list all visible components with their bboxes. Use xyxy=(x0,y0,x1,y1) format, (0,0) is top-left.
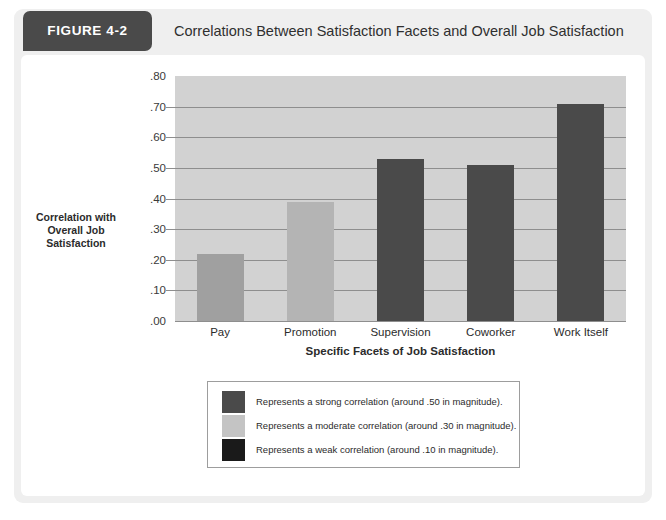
x-axis-tick-label: Promotion xyxy=(284,326,336,338)
y-axis-tick-mark xyxy=(166,199,175,200)
y-axis-tick-labels: .80.70.60.50.40.30.20.10.00 xyxy=(116,76,166,321)
y-axis-tick-label: .70 xyxy=(132,101,166,113)
figure-number-label: FIGURE 4-2 xyxy=(23,11,152,51)
y-axis-tick-label: .30 xyxy=(132,223,166,235)
figure-title: Correlations Between Satisfaction Facets… xyxy=(174,19,644,43)
legend-item: Represents a moderate correlation (aroun… xyxy=(222,414,512,438)
y-axis-title-line-2: Overall Job xyxy=(31,224,121,237)
figure-card: FIGURE 4-2 Correlations Between Satisfac… xyxy=(14,9,652,503)
x-axis-tick-label: Pay xyxy=(210,326,230,338)
legend-swatch xyxy=(222,391,245,413)
legend-item: Represents a strong correlation (around … xyxy=(222,390,512,414)
y-axis-tick-label: .10 xyxy=(132,284,166,296)
x-axis-tick-label: Coworker xyxy=(466,326,515,338)
y-axis-tick-mark xyxy=(166,260,175,261)
y-axis-tick-label: .40 xyxy=(132,193,166,205)
bar xyxy=(467,165,514,321)
bar-chart: Correlation with Overall Job Satisfactio… xyxy=(21,55,645,355)
figure-body: Correlation with Overall Job Satisfactio… xyxy=(21,55,645,496)
plot-area xyxy=(175,76,626,321)
bar xyxy=(197,254,244,321)
y-axis-title: Correlation with Overall Job Satisfactio… xyxy=(31,211,121,250)
legend-label: Represents a weak correlation (around .1… xyxy=(256,438,498,462)
bar xyxy=(377,159,424,321)
y-axis-tick-label: .50 xyxy=(132,162,166,174)
chart-legend: Represents a strong correlation (around … xyxy=(207,381,520,468)
y-axis-tick-mark xyxy=(166,168,175,169)
y-axis-tick-mark xyxy=(166,137,175,138)
y-axis-title-line-3: Satisfaction xyxy=(31,237,121,250)
legend-label: Represents a moderate correlation (aroun… xyxy=(256,414,516,438)
y-axis-tick-mark xyxy=(166,229,175,230)
y-axis-tick-label: .00 xyxy=(132,315,166,327)
bar xyxy=(557,104,604,321)
x-axis-title: Specific Facets of Job Satisfaction xyxy=(175,345,626,357)
y-axis-tick-label: .60 xyxy=(132,131,166,143)
legend-swatch xyxy=(222,439,245,461)
y-axis-tick-label: .20 xyxy=(132,254,166,266)
figure-number-tab: FIGURE 4-2 xyxy=(23,11,152,51)
bar xyxy=(287,202,334,321)
legend-swatch xyxy=(222,415,245,437)
legend-item: Represents a weak correlation (around .1… xyxy=(222,438,512,462)
x-axis-line xyxy=(175,321,626,322)
figure-header: FIGURE 4-2 Correlations Between Satisfac… xyxy=(14,9,652,55)
x-axis-tick-label: Supervision xyxy=(370,326,430,338)
y-axis-tick-label: .80 xyxy=(132,70,166,82)
y-axis-tick-mark xyxy=(166,290,175,291)
y-axis-tick-mark xyxy=(166,107,175,108)
x-axis-tick-labels: PayPromotionSupervisionCoworkerWork Itse… xyxy=(175,326,626,344)
y-axis-title-line-1: Correlation with xyxy=(31,211,121,224)
x-axis-tick-label: Work Itself xyxy=(554,326,608,338)
legend-label: Represents a strong correlation (around … xyxy=(256,390,503,414)
